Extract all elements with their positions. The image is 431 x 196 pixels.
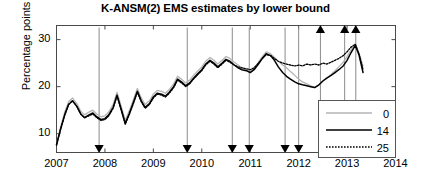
x-tick-label: 2009	[133, 157, 173, 169]
y-tick-label: 20	[27, 79, 51, 91]
event-arrow-down-icon	[280, 145, 289, 153]
event-arrow-down-icon	[294, 145, 303, 153]
x-tick-label: 2011	[230, 157, 270, 169]
x-tick-label: 2012	[279, 157, 319, 169]
chart-figure: K-ANSM(2) EMS estimates by lower bound P…	[0, 0, 431, 196]
event-arrow-down-icon	[95, 145, 104, 153]
x-tick-label: 2013	[327, 157, 367, 169]
legend-label-14: 14	[377, 122, 389, 140]
y-tick-label: 10	[27, 126, 51, 138]
x-tick-label: 2014	[376, 157, 416, 169]
x-tick-label: 2008	[85, 157, 125, 169]
legend-label-0: 0	[383, 105, 389, 123]
chart-legend[interactable]: 01425	[318, 100, 396, 158]
legend-label-25: 25	[377, 139, 389, 157]
event-arrow-down-icon	[245, 145, 254, 153]
y-tick-label: 30	[27, 32, 51, 44]
x-tick-label: 2007	[37, 157, 77, 169]
legend-item-25[interactable]: 25	[319, 139, 395, 157]
legend-item-0[interactable]: 0	[319, 105, 395, 123]
legend-item-14[interactable]: 14	[319, 122, 395, 140]
event-arrow-up-icon	[340, 25, 349, 33]
event-arrow-down-icon	[183, 145, 192, 153]
event-arrow-up-icon	[316, 25, 325, 33]
event-arrow-down-icon	[228, 145, 237, 153]
x-tick-label: 2010	[182, 157, 222, 169]
event-arrow-up-icon	[351, 25, 360, 33]
